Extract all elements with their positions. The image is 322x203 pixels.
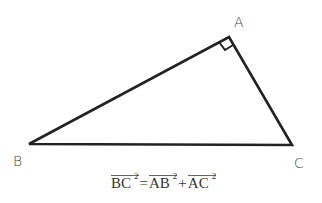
segment-ab: AB2 <box>149 174 177 192</box>
triangle-diagram <box>0 0 322 203</box>
right-triangle <box>29 37 292 145</box>
right-angle-marker <box>219 42 233 50</box>
segment-ac: AC2 <box>188 174 216 192</box>
equals-sign: = <box>140 175 148 191</box>
plus-sign: + <box>178 175 186 191</box>
vertex-label-c: C <box>294 156 304 170</box>
vertex-label-b: B <box>13 154 22 168</box>
pythagorean-formula: BC2=AB2+AC2 <box>111 174 216 192</box>
segment-bc: BC2 <box>111 174 139 192</box>
vertex-label-a: A <box>234 15 244 29</box>
